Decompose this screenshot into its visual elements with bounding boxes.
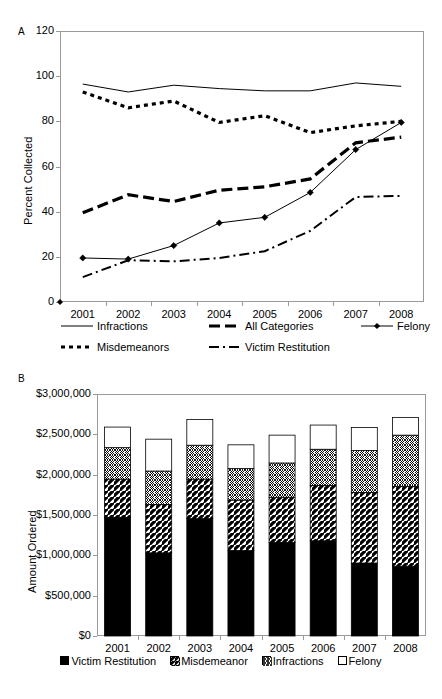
panel-a-y-tick-mark	[56, 257, 60, 258]
panel-a-legend-label: Infractions	[97, 320, 148, 332]
panel-a-legend-key-thin-solid-marker	[360, 319, 394, 333]
panel-b-y-tick-mark	[93, 515, 97, 516]
panel-a-y-tick-mark	[56, 302, 60, 303]
panel-b-y-tick-label: $500,000	[20, 590, 91, 601]
panel-a-x-tick-mark	[288, 302, 289, 306]
panel-a-y-tick-mark	[56, 167, 60, 168]
panel-b-stacked-bar-chart: B Amount Ordered $0$500,000$1,000,000$1,…	[0, 365, 442, 699]
panel-b-x-tick-mark	[303, 636, 304, 640]
panel-a-y-tick-mark	[56, 76, 60, 77]
panel-b-y-tick-label: $3,000,000	[20, 388, 91, 399]
panel-b-legend-swatch-cross-hatch	[262, 656, 271, 665]
panel-a-legend-key-thick-dashed	[208, 319, 242, 333]
panel-a-legend-key-thin-solid	[60, 319, 94, 333]
panel-b-plot-area	[97, 394, 426, 636]
panel-b-legend-item[interactable]: Victim Restitution	[60, 654, 156, 667]
panel-a-x-tick-mark	[333, 302, 334, 306]
panel-b-legend-swatch-solid-black	[60, 656, 69, 665]
panel-a-y-tick-mark	[56, 121, 60, 122]
panel-b-legend-item[interactable]: Infractions	[262, 654, 324, 667]
panel-b-y-tick-mark	[93, 555, 97, 556]
panel-a-x-tick-mark	[106, 302, 107, 306]
panel-b-y-tick-label: $1,500,000	[20, 509, 91, 520]
panel-a-legend-label: All Categories	[245, 320, 313, 332]
panel-b-x-tick-mark	[344, 636, 345, 640]
panel-a-y-tick-label: 80	[20, 115, 54, 126]
panel-b-y-tick-label: $2,500,000	[20, 428, 91, 439]
panel-a-x-tick-mark	[379, 302, 380, 306]
panel-b-legend-item[interactable]: Misdemeanor	[170, 654, 248, 667]
panel-a-legend-key-dash-dot	[208, 340, 242, 354]
panel-b-legend-label: Felony	[349, 655, 382, 667]
panel-b-legend-label: Misdemeanor	[181, 655, 248, 667]
panel-a-x-tick-mark	[151, 302, 152, 306]
panel-b-x-tick-mark	[262, 636, 263, 640]
panel-a-y-tick-mark	[56, 212, 60, 213]
panel-a-x-tick-mark	[197, 302, 198, 306]
panel-b-y-tick-mark	[93, 636, 97, 637]
panel-b-y-tick-label: $2,000,000	[20, 469, 91, 480]
panel-b-y-tick-mark	[93, 434, 97, 435]
panel-a-y-tick-label: 120	[20, 25, 54, 36]
panel-b-legend-swatch-diagonal-hatch	[170, 656, 179, 665]
panel-a-legend: InfractionsAll CategoriesFelonyMisdemean…	[60, 318, 440, 360]
panel-b-label: B	[18, 373, 25, 384]
panel-b-legend-item[interactable]: Felony	[338, 654, 382, 667]
panel-a-legend-key-thick-dotted	[60, 340, 94, 354]
panel-b-y-tick-mark	[93, 394, 97, 395]
panel-a-y-tick-label: 40	[20, 206, 54, 217]
panel-b-legend-label: Victim Restitution	[71, 655, 156, 667]
panel-a-y-tick-label: 20	[20, 251, 54, 262]
panel-a-y-tick-mark	[56, 31, 60, 32]
panel-b-y-tick-mark	[93, 596, 97, 597]
panel-b-legend-swatch-white	[338, 656, 347, 665]
panel-b-y-tick-mark	[93, 475, 97, 476]
panel-a-legend-label: Misdemeanors	[97, 341, 169, 353]
panel-a-legend-label: Victim Restitution	[245, 341, 330, 353]
panel-a-line-chart: A Percent Collected 020406080100120 2001…	[0, 0, 442, 365]
panel-a-y-tick-label: 100	[20, 70, 54, 81]
panel-b-y-tick-label: $0	[20, 630, 91, 641]
panel-b-x-tick-mark	[385, 636, 386, 640]
panel-b-legend: Victim RestitutionMisdemeanorInfractions…	[0, 653, 442, 667]
panel-a-y-tick-label: 0	[20, 296, 54, 307]
panel-a-y-tick-label: 60	[20, 161, 54, 172]
panel-b-x-tick-mark	[179, 636, 180, 640]
panel-b-x-tick-mark	[138, 636, 139, 640]
panel-b-y-tick-label: $1,000,000	[20, 549, 91, 560]
panel-b-x-tick-mark	[220, 636, 221, 640]
panel-a-plot-area	[60, 31, 424, 302]
panel-a-legend-label: Felony	[397, 320, 430, 332]
panel-b-legend-label: Infractions	[273, 655, 324, 667]
panel-a-x-tick-mark	[242, 302, 243, 306]
